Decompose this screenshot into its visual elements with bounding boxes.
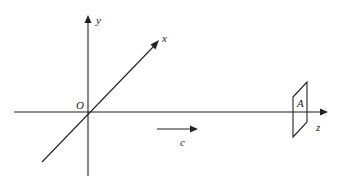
z-axis-arrowhead [320,109,328,116]
y-axis-arrowhead [85,15,92,23]
origin-label: O [76,99,84,111]
velocity-label: c [180,136,185,148]
x-axis [42,45,155,162]
y-axis-label: y [95,14,101,26]
x-axis-label: x [161,32,167,44]
plane-label: A [296,97,304,109]
coordinate-diagram: O y x z A c [0,0,340,187]
plane-a [293,82,307,137]
velocity-arrowhead [190,126,198,133]
z-axis-label: z [315,121,321,133]
